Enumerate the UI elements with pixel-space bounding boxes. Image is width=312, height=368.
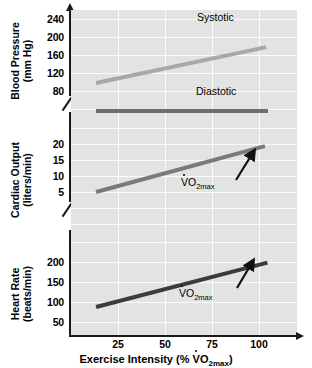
yaxis-title-line2: (mm Hg) (21, 13, 33, 109)
ytick-bp-80: 80 (36, 86, 64, 96)
ytick-co-10: 10 (36, 171, 64, 181)
series-label-systolic: Systotic (197, 12, 234, 23)
gridline-h (71, 55, 297, 56)
gridline-h (71, 19, 297, 20)
vo2max-annotation-cardiac-output: VO2max (181, 177, 215, 192)
xaxis-title: Exercise Intensity (% VO2max) (0, 353, 312, 368)
gridline-v (118, 230, 119, 335)
gridline-h (71, 73, 297, 74)
xtick-25: 25 (103, 339, 133, 350)
gridline-v (118, 10, 119, 120)
vo2max-sub: 2max (194, 293, 212, 302)
yaxis-title-blood-pressure: Blood Pressure (mm Hg) (9, 13, 33, 109)
gridline-v (118, 120, 119, 240)
gridline-v (165, 230, 166, 335)
vo2max-v: V (181, 177, 188, 188)
yaxis-title-line1: Blood Pressure (9, 13, 21, 109)
plot-area-blood-pressure: Systotic Diastotic (71, 10, 297, 120)
vo2max-o: O (186, 287, 194, 299)
panel-heart-rate: Heart Rate (beats/min) 200 150 100 50 (0, 240, 312, 365)
plot-area-heart-rate: VO2max (71, 230, 297, 335)
yaxis-title-heart-rate: Heart Rate (beats/min) (9, 248, 33, 340)
ytick-co-5: 5 (36, 187, 64, 197)
ytick-hr-50: 50 (36, 317, 64, 327)
yaxis-title-line2: (liters/min) (21, 132, 33, 228)
yaxis-title-line1: Heart Rate (9, 248, 21, 340)
yaxis-title-cardiac-output: Cardiac Output (liters/min) (9, 132, 33, 228)
panel-cardiac-output: Cardiac Output (liters/min) 20 15 10 5 (0, 120, 312, 240)
series-line-diastolic (96, 109, 268, 113)
gridline-h (71, 242, 297, 243)
panel-blood-pressure: Blood Pressure (mm Hg) 240 200 160 120 8… (0, 0, 312, 120)
gridline-h (71, 91, 297, 92)
ytick-bp-200: 200 (36, 32, 64, 42)
vo2max-arrow-heart-rate (227, 254, 267, 294)
gridline-v (165, 120, 166, 240)
ytick-bp-160: 160 (36, 50, 64, 60)
yaxis-title-line1: Cardiac Output (9, 132, 21, 228)
vo2max-sub: 2max (196, 182, 214, 191)
ytick-bp-240: 240 (36, 14, 64, 24)
gridline-v (165, 10, 166, 120)
vo2max-o: O (188, 176, 196, 188)
gridline-h (71, 37, 297, 38)
vo2max-arrow-cardiac-output (226, 142, 266, 184)
xtick-75: 75 (197, 339, 227, 350)
xtick-50: 50 (150, 339, 180, 350)
xaxis-vo2max-sub: 2max (208, 359, 228, 368)
ytick-bp-120: 120 (36, 68, 64, 78)
xaxis-arrowhead (296, 332, 304, 340)
plot-area-cardiac-output: VO2max (71, 120, 297, 240)
yaxis-title-line2: (beats/min) (21, 248, 33, 340)
ytick-co-20: 20 (36, 139, 64, 149)
gridline-h (71, 224, 297, 225)
gridline-v (212, 230, 213, 335)
ytick-hr-150: 150 (36, 277, 64, 287)
vo2max-v: V (179, 288, 186, 299)
series-label-diastolic: Diastotic (196, 86, 236, 97)
xaxis-title-prefix: Exercise Intensity (% (79, 353, 192, 365)
ytick-co-15: 15 (36, 155, 64, 165)
gridline-h (71, 322, 297, 323)
series-line-systolic (96, 45, 267, 85)
gridline-v (259, 10, 260, 120)
gridline-h (71, 192, 297, 193)
gridline-h (71, 208, 297, 209)
xtick-100: 100 (244, 339, 274, 350)
gridline-h (71, 128, 297, 129)
ytick-hr-100: 100 (36, 297, 64, 307)
xaxis-title-suffix: ) (229, 353, 233, 365)
xaxis-line (69, 335, 297, 337)
xaxis-vo2max-v: V (193, 353, 200, 365)
gridline-v (212, 10, 213, 120)
ytick-hr-200: 200 (36, 257, 64, 267)
vo2max-annotation-heart-rate: VO2max (179, 288, 213, 303)
